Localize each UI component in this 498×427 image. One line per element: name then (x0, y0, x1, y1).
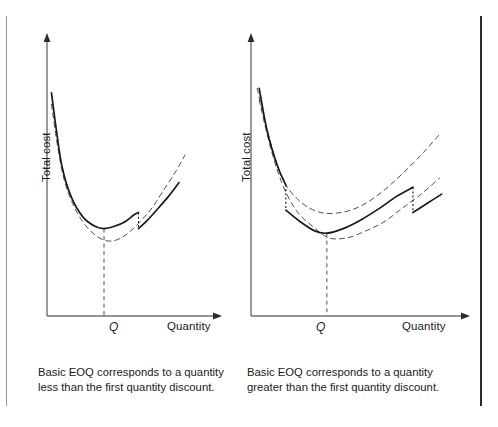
base-cost-curve-segment-1 (139, 183, 180, 229)
lower-price-curve-segment-0 (259, 100, 439, 239)
right-y-axis-label: Total cost (240, 132, 252, 182)
svg-left-axes (44, 33, 222, 319)
left-y-axis-label: Total cost (40, 132, 52, 182)
left-x-axis-label: Quantity (167, 320, 211, 332)
figure-root: Total cost Quantity Q Basic EOQ correspo… (0, 0, 498, 427)
left-q-tick-label: Q (109, 320, 118, 334)
left-chart-plot (0, 0, 249, 345)
y-axis-arrowhead (248, 33, 255, 42)
right-q-tick-label: Q (316, 320, 325, 334)
discount-cost-curve-segment-0 (52, 104, 186, 241)
panel-left: Total cost Quantity Q Basic EOQ correspo… (0, 0, 249, 427)
x-axis-arrowhead (213, 313, 222, 320)
x-axis-arrowhead (461, 313, 470, 320)
left-caption: Basic EOQ corresponds to a quantity less… (38, 365, 243, 394)
y-axis-arrowhead (44, 33, 51, 42)
upper-price-curve-segment-0 (257, 88, 439, 213)
right-x-axis-label: Quantity (402, 320, 446, 332)
panel-right: Total cost Quantity Q Basic EOQ correspo… (222, 0, 482, 427)
effective-cost-curve-segment-0 (259, 88, 286, 185)
base-cost-curve-segment-0 (52, 93, 139, 229)
right-caption: Basic EOQ corresponds to a quantity grea… (247, 365, 462, 394)
right-chart-plot (222, 0, 482, 345)
